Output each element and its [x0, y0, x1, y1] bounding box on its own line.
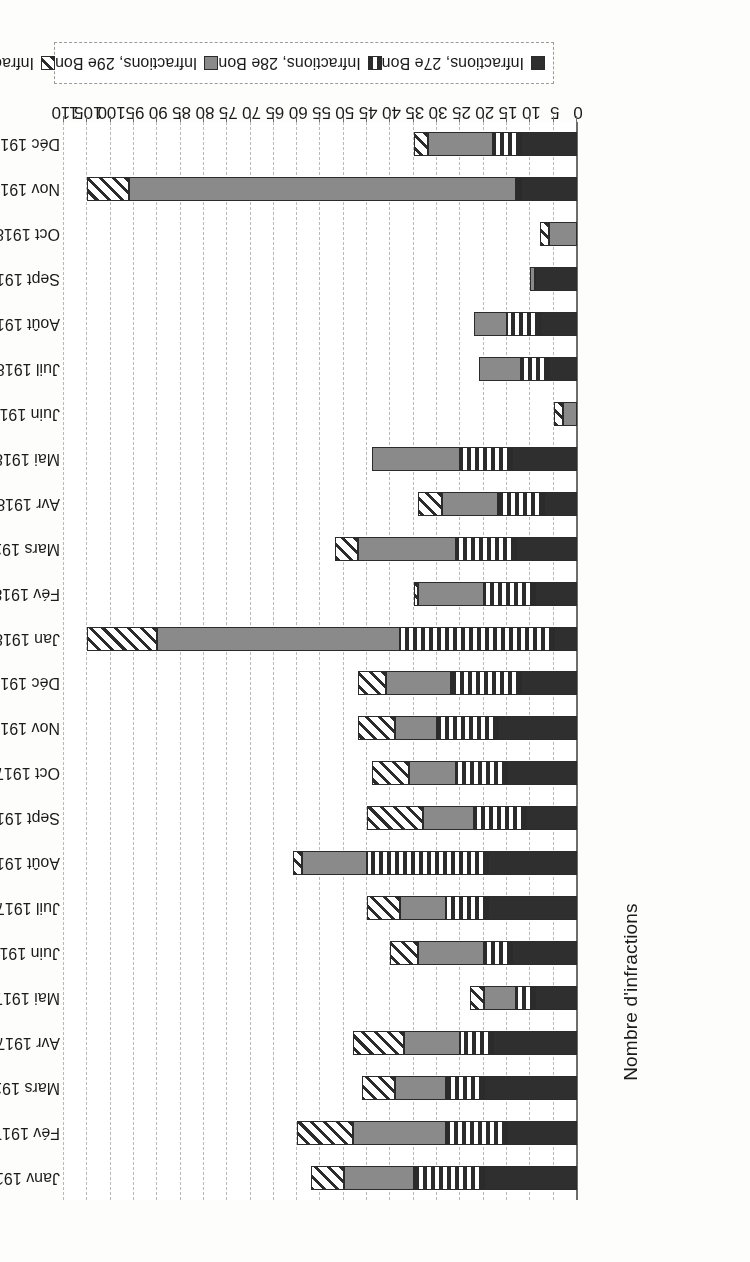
bar-segment[interactable] — [516, 177, 521, 201]
stacked-bar[interactable] — [414, 582, 577, 606]
bar-segment[interactable] — [516, 986, 535, 1010]
bar-segment[interactable] — [521, 671, 577, 695]
stacked-bar[interactable] — [530, 267, 577, 291]
bar-segment[interactable] — [157, 627, 400, 651]
bar-segment[interactable] — [484, 1166, 577, 1190]
stacked-bar[interactable] — [390, 941, 577, 965]
bar-segment[interactable] — [488, 851, 577, 875]
bar-segment[interactable] — [418, 582, 483, 606]
bar-segment[interactable] — [395, 1076, 446, 1100]
bar-segment[interactable] — [479, 357, 521, 381]
bar-segment[interactable] — [530, 267, 535, 291]
bar-segment[interactable] — [400, 896, 447, 920]
stacked-bar[interactable] — [87, 177, 577, 201]
bar-segment[interactable] — [418, 492, 441, 516]
bar-segment[interactable] — [367, 851, 488, 875]
bar-segment[interactable] — [446, 896, 488, 920]
stacked-bar[interactable] — [474, 312, 577, 336]
bar-segment[interactable] — [549, 357, 577, 381]
stacked-bar[interactable] — [358, 671, 577, 695]
legend-item[interactable]: Infractions, 27e Bon — [382, 54, 545, 72]
bar-segment[interactable] — [293, 851, 302, 875]
bar-segment[interactable] — [521, 132, 577, 156]
bar-segment[interactable] — [498, 716, 577, 740]
legend-item[interactable]: Infractions, 28e Bon — [218, 54, 381, 72]
bar-segment[interactable] — [549, 222, 577, 246]
bar-segment[interactable] — [470, 986, 484, 1010]
stacked-bar[interactable] — [335, 537, 578, 561]
bar-segment[interactable] — [493, 1031, 577, 1055]
bar-segment[interactable] — [484, 986, 517, 1010]
bar-segment[interactable] — [395, 716, 437, 740]
bar-segment[interactable] — [460, 1031, 493, 1055]
bar-segment[interactable] — [521, 357, 549, 381]
bar-segment[interactable] — [535, 267, 577, 291]
bar-segment[interactable] — [358, 671, 386, 695]
stacked-bar[interactable] — [358, 716, 577, 740]
bar-segment[interactable] — [488, 896, 577, 920]
bar-segment[interactable] — [507, 312, 540, 336]
bar-segment[interactable] — [563, 402, 577, 426]
bar-segment[interactable] — [512, 447, 577, 471]
bar-segment[interactable] — [423, 806, 474, 830]
bar-segment[interactable] — [386, 671, 451, 695]
bar-segment[interactable] — [414, 132, 428, 156]
stacked-bar[interactable] — [293, 851, 577, 875]
bar-segment[interactable] — [404, 1031, 460, 1055]
bar-segment[interactable] — [526, 806, 577, 830]
bar-segment[interactable] — [437, 716, 498, 740]
stacked-bar[interactable] — [372, 761, 577, 785]
stacked-bar[interactable] — [479, 357, 577, 381]
bar-segment[interactable] — [446, 1121, 507, 1145]
bar-segment[interactable] — [507, 1121, 577, 1145]
bar-segment[interactable] — [516, 537, 577, 561]
bar-segment[interactable] — [540, 222, 549, 246]
bar-segment[interactable] — [535, 582, 577, 606]
legend-item[interactable]: Infractions, 29e Bon — [55, 54, 218, 72]
legend-item[interactable]: Infractions, 31e Bon — [0, 54, 55, 72]
bar-segment[interactable] — [414, 582, 419, 606]
bar-segment[interactable] — [372, 447, 461, 471]
bar-segment[interactable] — [129, 177, 516, 201]
bar-segment[interactable] — [451, 671, 521, 695]
bar-segment[interactable] — [87, 177, 129, 201]
stacked-bar[interactable] — [367, 806, 577, 830]
bar-segment[interactable] — [540, 312, 577, 336]
bar-segment[interactable] — [512, 941, 577, 965]
bar-segment[interactable] — [363, 1076, 396, 1100]
bar-segment[interactable] — [484, 941, 512, 965]
bar-segment[interactable] — [311, 1166, 344, 1190]
bar-segment[interactable] — [554, 402, 563, 426]
bar-segment[interactable] — [297, 1121, 353, 1145]
bar-segment[interactable] — [474, 806, 525, 830]
stacked-bar[interactable] — [297, 1121, 577, 1145]
bar-segment[interactable] — [335, 537, 358, 561]
stacked-bar[interactable] — [362, 1076, 577, 1100]
bar-segment[interactable] — [456, 537, 517, 561]
bar-segment[interactable] — [353, 1121, 446, 1145]
stacked-bar[interactable] — [470, 986, 577, 1010]
bar-segment[interactable] — [372, 761, 409, 785]
bar-segment[interactable] — [409, 761, 456, 785]
bar-segment[interactable] — [344, 1166, 414, 1190]
stacked-bar[interactable] — [311, 1166, 577, 1190]
bar-segment[interactable] — [87, 627, 157, 651]
stacked-bar[interactable] — [540, 222, 577, 246]
bar-segment[interactable] — [358, 716, 395, 740]
bar-segment[interactable] — [493, 132, 521, 156]
bar-segment[interactable] — [428, 132, 493, 156]
bar-segment[interactable] — [391, 941, 419, 965]
bar-segment[interactable] — [544, 492, 577, 516]
stacked-bar[interactable] — [414, 132, 577, 156]
bar-segment[interactable] — [456, 761, 507, 785]
bar-segment[interactable] — [400, 627, 554, 651]
bar-segment[interactable] — [414, 1166, 484, 1190]
bar-segment[interactable] — [474, 312, 507, 336]
stacked-bar[interactable] — [353, 1031, 577, 1055]
bar-segment[interactable] — [358, 537, 456, 561]
bar-segment[interactable] — [521, 177, 577, 201]
bar-segment[interactable] — [367, 896, 400, 920]
bar-segment[interactable] — [484, 582, 535, 606]
stacked-bar[interactable] — [87, 627, 577, 651]
stacked-bar[interactable] — [372, 447, 577, 471]
